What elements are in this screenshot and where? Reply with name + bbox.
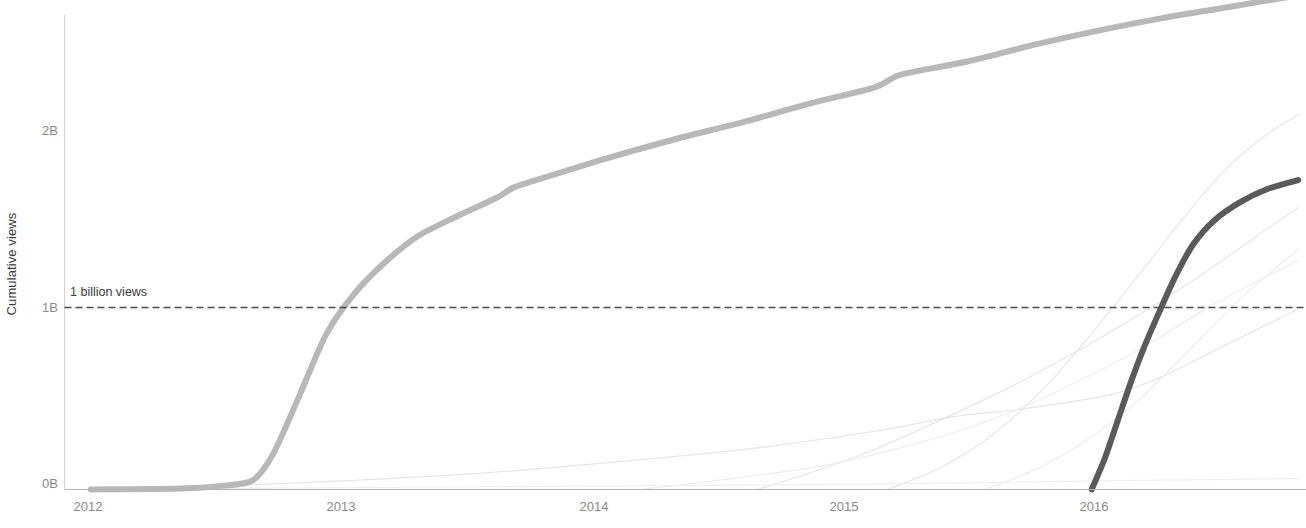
chart-canvas: Cumulative views 2B 1B 0B 1 billion view… xyxy=(0,0,1306,528)
x-tick-label-2014: 2014 xyxy=(580,500,609,513)
x-axis-tick-labels: 2012 2013 2014 2015 2016 xyxy=(0,0,1306,528)
x-tick-label-2012: 2012 xyxy=(74,500,103,513)
x-tick-label-2013: 2013 xyxy=(327,500,356,513)
x-tick-label-2016: 2016 xyxy=(1080,500,1109,513)
x-tick-label-2015: 2015 xyxy=(830,500,859,513)
